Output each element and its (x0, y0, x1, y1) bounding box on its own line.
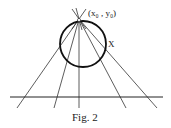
circle-x (60, 21, 106, 67)
ray-2 (54, 19, 79, 108)
ray-5 (79, 19, 157, 108)
apex-point (77, 18, 80, 21)
figure-caption: Fig. 2 (72, 111, 98, 123)
figure-diagram: (x₀ , y₀) X Fig. 2 (0, 0, 171, 128)
point-label: (x₀ , y₀) (88, 8, 116, 18)
rays (17, 8, 157, 108)
curve-label: X (108, 39, 115, 49)
